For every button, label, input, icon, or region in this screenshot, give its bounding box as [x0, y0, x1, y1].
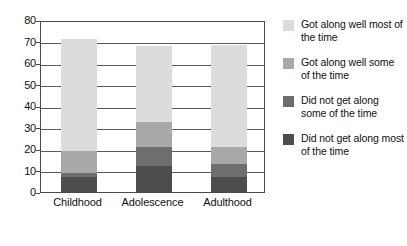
- bar-segment: [136, 147, 172, 166]
- y-axis-tick-label: 40: [2, 101, 36, 112]
- bar-adulthood: [211, 45, 247, 192]
- x-axis: ChildhoodAdolescenceAdulthood: [40, 196, 265, 216]
- legend-swatch: [283, 58, 294, 69]
- bar-segment: [211, 177, 247, 192]
- y-axis-tick-label: 10: [2, 166, 36, 177]
- bar-adolescence: [136, 46, 172, 192]
- legend-swatch: [283, 20, 294, 31]
- plot-area: [40, 21, 265, 193]
- legend-swatch: [283, 96, 294, 107]
- legend-label: Did not get along most of the time: [301, 132, 405, 157]
- y-axis: 01020304050607080: [0, 21, 36, 193]
- bar-segment: [211, 147, 247, 164]
- bar-childhood: [61, 39, 97, 192]
- bar-segment: [136, 166, 172, 192]
- legend-swatch: [283, 134, 294, 145]
- y-axis-tick-label: 50: [2, 80, 36, 91]
- legend: Got along well most of the timeGot along…: [283, 18, 405, 170]
- bar-segment: [61, 39, 97, 151]
- y-axis-tick-label: 30: [2, 123, 36, 134]
- y-axis-tick-label: 80: [2, 15, 36, 26]
- y-axis-tick-label: 60: [2, 58, 36, 69]
- bar-segment: [61, 177, 97, 192]
- legend-label: Did not get along some of the time: [301, 94, 405, 119]
- bar-segment: [136, 46, 172, 122]
- legend-label: Got along well most of the time: [301, 18, 405, 43]
- x-axis-tick-label: Adulthood: [190, 196, 265, 209]
- bar-segment: [61, 173, 97, 177]
- legend-item: Got along well some of the time: [283, 56, 405, 82]
- bar-segment: [211, 45, 247, 147]
- bar-segment: [136, 122, 172, 147]
- y-axis-tick-label: 70: [2, 37, 36, 48]
- bar-segment: [61, 151, 97, 173]
- bar-segment: [211, 164, 247, 177]
- x-axis-tick-label: Childhood: [40, 196, 115, 209]
- y-axis-tick-label: 20: [2, 144, 36, 155]
- stacked-bar-chart: 01020304050607080 ChildhoodAdolescenceAd…: [0, 0, 407, 246]
- x-axis-tick-label: Adolescence: [115, 196, 190, 209]
- legend-item: Got along well most of the time: [283, 18, 405, 44]
- legend-item: Did not get along some of the time: [283, 94, 405, 120]
- legend-label: Got along well some of the time: [301, 56, 405, 81]
- legend-item: Did not get along most of the time: [283, 132, 405, 158]
- y-axis-tick-label: 0: [2, 187, 36, 198]
